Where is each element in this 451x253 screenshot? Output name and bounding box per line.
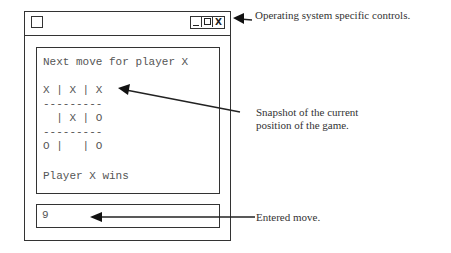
snapshot-annotation-line2: position of the game. (256, 119, 349, 131)
controls-annotation: Operating system specific controls. (255, 9, 410, 21)
diagram: X Next move for player X X | X | X -----… (0, 0, 451, 253)
annotation-arrows (0, 0, 451, 253)
input-annotation: Entered move. (256, 211, 320, 223)
snapshot-annotation-line1: Snapshot of the current (256, 106, 358, 118)
